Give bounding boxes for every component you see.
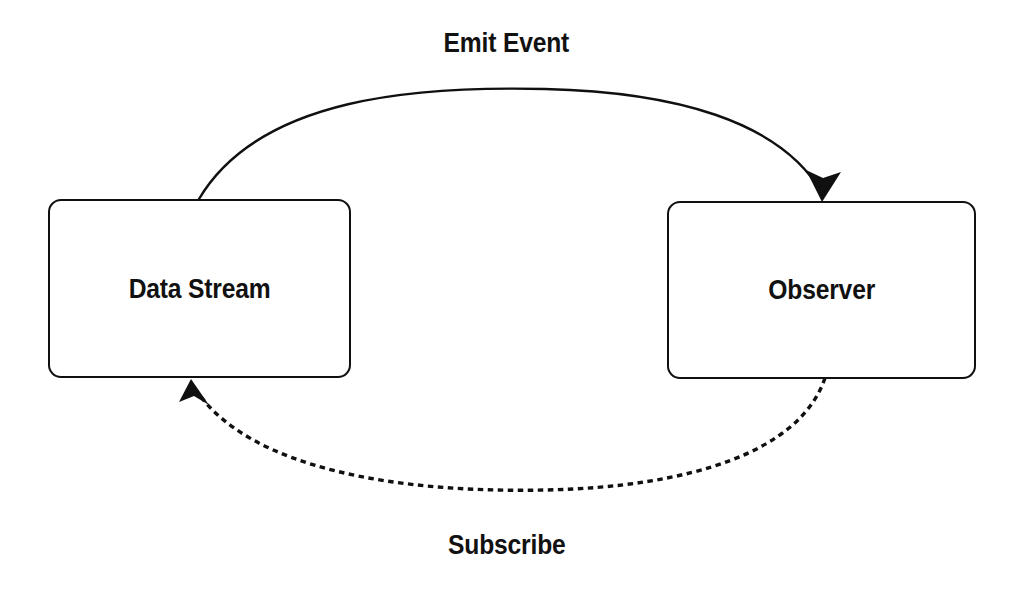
edge-subscribe (179, 378, 825, 490)
emit-event-arrowhead (806, 170, 841, 202)
node-data-stream-label: Data Stream (129, 275, 271, 303)
emit-event-curve (199, 89, 822, 199)
edge-label-subscribe-text: Subscribe (448, 531, 566, 559)
node-observer[interactable]: Observer (667, 201, 976, 379)
node-data-stream[interactable]: Data Stream (48, 199, 351, 378)
subscribe-arrowhead (179, 379, 209, 405)
node-observer-label: Observer (768, 276, 875, 304)
edge-label-emit-event: Emit Event (0, 29, 1013, 57)
edge-label-subscribe: Subscribe (0, 531, 1013, 559)
edge-label-emit-event-text: Emit Event (444, 29, 570, 57)
subscribe-curve (196, 378, 825, 490)
edge-emit-event (199, 89, 841, 202)
